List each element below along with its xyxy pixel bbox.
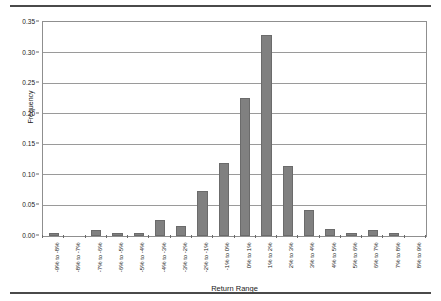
y-tick-label: 0.00 xyxy=(22,232,35,239)
gridline xyxy=(43,144,426,145)
x-tick-label: -6% to -5% xyxy=(116,243,125,289)
gridline xyxy=(43,174,426,175)
bar xyxy=(240,98,250,236)
y-tick-mark xyxy=(36,173,39,174)
x-tick-mark xyxy=(276,235,277,238)
bar xyxy=(368,230,378,236)
bar xyxy=(346,233,356,236)
x-tick-mark xyxy=(404,235,405,238)
x-tick-label: -1% to 0% xyxy=(223,243,232,289)
x-tick-mark xyxy=(42,235,43,238)
x-tick-label: 0% to 1% xyxy=(244,243,253,289)
bar xyxy=(176,226,186,236)
x-tick-mark xyxy=(425,235,426,238)
x-tick-label: -2% to -1% xyxy=(202,243,211,289)
y-tick-mark xyxy=(36,143,39,144)
x-tick-label: 3% to 4% xyxy=(308,243,317,289)
bar xyxy=(283,166,293,236)
bar xyxy=(219,163,229,236)
x-tick-label: 4% to 5% xyxy=(329,243,338,289)
y-tick-label: 0.05 xyxy=(22,201,35,208)
x-tick-label: -4% to -3% xyxy=(159,243,168,289)
figure-container: 0.000.050.100.150.200.250.300.35 Frequen… xyxy=(0,0,441,301)
x-tick-label: 2% to 3% xyxy=(287,243,296,289)
x-tick-label: 7% to 8% xyxy=(393,243,402,289)
x-axis: -9% to -8%-8% to -7%-7% to -6%-6% to -5%… xyxy=(42,238,427,284)
bar xyxy=(91,230,101,236)
x-tick-mark xyxy=(212,235,213,238)
y-tick-label: 0.30 xyxy=(22,48,35,55)
x-tick-label: 1% to 2% xyxy=(265,243,274,289)
bar xyxy=(304,210,314,236)
y-tick-mark xyxy=(36,21,39,22)
bar xyxy=(155,220,165,237)
gridline xyxy=(43,83,426,84)
plot-area xyxy=(42,21,427,237)
bar xyxy=(325,229,335,236)
gridline xyxy=(43,113,426,114)
bar xyxy=(261,35,271,236)
bar xyxy=(112,233,122,236)
bar xyxy=(197,191,207,236)
x-tick-label: 6% to 7% xyxy=(372,243,381,289)
y-tick-mark xyxy=(36,112,39,113)
x-tick-mark xyxy=(148,235,149,238)
y-tick-mark xyxy=(36,82,39,83)
x-tick-mark xyxy=(319,235,320,238)
y-tick-mark xyxy=(36,51,39,52)
x-tick-label: -3% to -2% xyxy=(180,243,189,289)
bar xyxy=(49,233,59,236)
bar xyxy=(134,233,144,236)
gridline xyxy=(43,205,426,206)
x-tick-label: 5% to 6% xyxy=(351,243,360,289)
x-tick-mark xyxy=(106,235,107,238)
x-tick-mark xyxy=(63,235,64,238)
x-tick-mark xyxy=(297,235,298,238)
x-tick-mark xyxy=(255,235,256,238)
x-tick-label: -5% to -4% xyxy=(138,243,147,289)
gridline xyxy=(43,52,426,53)
top-rule xyxy=(10,5,431,7)
x-tick-mark xyxy=(191,235,192,238)
y-axis-title: Frequency xyxy=(27,72,35,142)
x-tick-mark xyxy=(234,235,235,238)
x-tick-mark xyxy=(85,235,86,238)
x-tick-mark xyxy=(127,235,128,238)
x-tick-label: -7% to -6% xyxy=(95,243,104,289)
y-tick-mark xyxy=(36,204,39,205)
bottom-rule xyxy=(10,292,431,294)
x-tick-label: 8% to 9% xyxy=(414,243,423,289)
x-tick-label: -9% to -8% xyxy=(53,243,62,289)
x-tick-mark xyxy=(340,235,341,238)
y-tick-label: 0.10 xyxy=(22,170,35,177)
x-tick-label: -8% to -7% xyxy=(74,243,83,289)
y-tick-mark xyxy=(36,235,39,236)
x-tick-mark xyxy=(382,235,383,238)
x-tick-mark xyxy=(170,235,171,238)
bar xyxy=(389,233,399,236)
y-tick-label: 0.35 xyxy=(22,18,35,25)
x-tick-mark xyxy=(361,235,362,238)
